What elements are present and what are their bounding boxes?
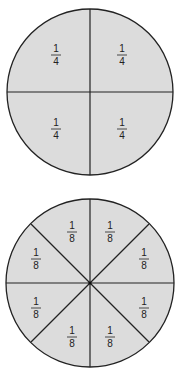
denominator: 4 [119,130,125,141]
numerator: 1 [69,325,75,336]
denominator: 8 [107,338,113,349]
denominator: 8 [141,309,147,320]
numerator: 1 [107,325,113,336]
center-point [88,281,91,284]
numerator: 1 [69,220,75,231]
denominator: 8 [107,233,113,244]
denominator: 4 [53,130,59,141]
numerator: 1 [33,247,39,258]
numerator: 1 [107,220,113,231]
denominator: 8 [69,233,75,244]
denominator: 8 [141,260,147,271]
eighths-circle: 1 8 1 8 1 8 1 8 1 8 1 8 1 [6,199,174,367]
denominator: 4 [53,56,59,67]
denominator: 8 [69,338,75,349]
numerator: 1 [141,296,147,307]
numerator: 1 [53,43,59,54]
numerator: 1 [119,43,125,54]
denominator: 8 [33,309,39,320]
denominator: 8 [33,260,39,271]
numerator: 1 [119,117,125,128]
numerator: 1 [33,296,39,307]
fourths-circle: 1 4 1 4 1 4 1 4 [7,9,173,175]
numerator: 1 [53,117,59,128]
denominator: 4 [119,56,125,67]
fraction-circles-diagram: 1 4 1 4 1 4 1 4 1 8 [0,0,179,374]
numerator: 1 [141,247,147,258]
